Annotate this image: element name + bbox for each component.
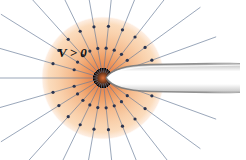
- figure-canvas: V > 0: [0, 0, 246, 160]
- marker-dot: [92, 25, 95, 28]
- marker-dot: [120, 53, 123, 56]
- marker-dot: [92, 128, 95, 131]
- marker-dot: [126, 59, 129, 62]
- marker-dot: [76, 92, 79, 95]
- marker-dot: [67, 115, 70, 118]
- marker-dot: [150, 59, 153, 62]
- marker-dot: [126, 94, 129, 97]
- marker-dot: [120, 100, 123, 103]
- marker-dot: [79, 30, 82, 33]
- marker-dot: [67, 38, 70, 41]
- marker-dot: [73, 68, 76, 71]
- marker-dot: [96, 106, 99, 109]
- marker-dot: [76, 61, 79, 64]
- wedge-body: [106, 63, 240, 93]
- marker-dot: [121, 125, 124, 128]
- potential-label: V > 0: [58, 45, 87, 60]
- marker-dot: [73, 85, 76, 88]
- marker-dot: [51, 62, 54, 65]
- marker-dot: [107, 128, 110, 131]
- marker-dot: [143, 107, 146, 110]
- marker-dot: [105, 47, 108, 50]
- marker-dot: [57, 104, 60, 107]
- marker-dot: [96, 47, 99, 50]
- marker-dot: [88, 49, 91, 52]
- marker-dot: [121, 28, 124, 31]
- marker-dot: [79, 123, 82, 126]
- marker-dot: [51, 91, 54, 94]
- marker-dot: [133, 35, 136, 38]
- marker-dot: [88, 103, 91, 106]
- marker-dot: [113, 49, 116, 52]
- marker-dot: [81, 99, 84, 102]
- marker-dot: [113, 104, 116, 107]
- marker-dot: [107, 25, 110, 28]
- marker-dot: [133, 117, 136, 120]
- marker-dot: [143, 46, 146, 49]
- flow-field-diagram: V > 0: [0, 0, 246, 160]
- marker-dot: [105, 106, 108, 109]
- marker-dot: [150, 94, 153, 97]
